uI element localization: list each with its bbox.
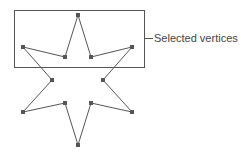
diagram-canvas — [0, 0, 241, 155]
vertex-handle[interactable] — [50, 78, 54, 82]
selected-vertex-handle[interactable] — [76, 13, 80, 17]
selected-vertex-handle[interactable] — [89, 55, 93, 59]
selected-vertex-handle[interactable] — [21, 45, 25, 49]
vertex-handle[interactable] — [101, 78, 105, 82]
vertex-handle[interactable] — [76, 143, 80, 147]
star-polygon[interactable] — [23, 15, 132, 145]
selected-vertex-handle[interactable] — [130, 45, 134, 49]
vertex-handle[interactable] — [21, 110, 25, 114]
selected-vertices-label: Selected vertices — [154, 32, 238, 45]
vertex-handle[interactable] — [89, 101, 93, 105]
selected-vertex-handle[interactable] — [63, 55, 67, 59]
vertex-handle[interactable] — [63, 101, 67, 105]
vertex-handle[interactable] — [130, 110, 134, 114]
vertex-handles — [21, 13, 134, 147]
